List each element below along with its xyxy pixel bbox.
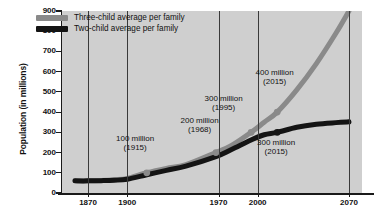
annotation-label: 400 million(2015) bbox=[256, 69, 294, 87]
y-tick-label: 400 bbox=[16, 108, 56, 116]
annotation-label: 300 million(2015) bbox=[257, 139, 295, 157]
annotation-value: 200 million bbox=[181, 116, 219, 125]
x-tick bbox=[258, 193, 259, 197]
population-growth-chart: Population (in millions) 010020030040050… bbox=[0, 0, 383, 224]
data-point-marker bbox=[143, 169, 150, 176]
annotation-value: 100 million bbox=[116, 134, 154, 143]
x-tick bbox=[219, 193, 220, 197]
annotation-year: (2015) bbox=[256, 78, 294, 87]
legend-label-three-child: Three-child average per family bbox=[74, 14, 185, 22]
x-tick bbox=[88, 193, 89, 197]
gridline bbox=[258, 11, 259, 193]
data-point-marker bbox=[274, 109, 281, 116]
y-tick-label: 500 bbox=[16, 88, 56, 96]
x-tick-label: 2070 bbox=[329, 199, 369, 207]
y-tick-label: 600 bbox=[16, 68, 56, 76]
annotation-year: (1968) bbox=[181, 126, 219, 135]
annotation-year: (2015) bbox=[257, 148, 295, 157]
y-tick-label: 0 bbox=[16, 189, 56, 197]
gridline bbox=[349, 11, 350, 193]
legend-item-three-child: Three-child average per family bbox=[36, 14, 185, 22]
x-axis-line bbox=[58, 193, 374, 195]
annotation-label: 300 million(1995) bbox=[205, 95, 243, 113]
y-tick-label: 200 bbox=[16, 149, 56, 157]
x-tick-label: 1900 bbox=[107, 199, 147, 207]
gridline bbox=[127, 11, 128, 193]
data-point-marker bbox=[274, 129, 281, 136]
annotation-year: (1995) bbox=[205, 104, 243, 113]
x-tick-label: 1970 bbox=[199, 199, 239, 207]
x-tick bbox=[127, 193, 128, 197]
y-tick-label: 100 bbox=[16, 169, 56, 177]
legend: Three-child average per family Two-child… bbox=[36, 14, 185, 33]
legend-swatch-three-child bbox=[36, 15, 68, 21]
annotation-value: 300 million bbox=[257, 138, 295, 147]
y-tick-label: 700 bbox=[16, 47, 56, 55]
annotation-label: 200 million(1968) bbox=[181, 117, 219, 135]
plot-area: 100 million(1915)200 million(1968)300 mi… bbox=[62, 11, 362, 193]
gridline bbox=[88, 11, 89, 193]
x-tick bbox=[349, 193, 350, 197]
annotation-value: 300 million bbox=[205, 94, 243, 103]
legend-label-two-child: Two-child average per family bbox=[74, 25, 178, 33]
annotation-value: 400 million bbox=[256, 68, 294, 77]
x-tick-label: 2000 bbox=[238, 199, 278, 207]
legend-item-two-child: Two-child average per family bbox=[36, 25, 185, 33]
annotation-label: 100 million(1915) bbox=[116, 135, 154, 153]
x-tick-label: 1870 bbox=[68, 199, 108, 207]
data-point-marker bbox=[248, 129, 255, 136]
legend-swatch-two-child bbox=[36, 26, 68, 32]
y-tick-label: 300 bbox=[16, 128, 56, 136]
annotation-year: (1915) bbox=[116, 144, 154, 153]
